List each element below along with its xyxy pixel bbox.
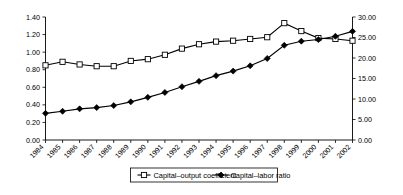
series-1-marker <box>282 21 287 26</box>
x-axis-tick-label: 1989 <box>113 143 131 161</box>
left-axis-tick-label: 0.20 <box>26 118 40 127</box>
series-1-marker <box>299 28 304 33</box>
series-2-marker <box>213 73 219 79</box>
x-axis-tick-label: 1999 <box>284 143 302 161</box>
series-1-marker <box>60 59 65 64</box>
x-axis-tick-label: 1994 <box>198 143 216 161</box>
series-1-marker <box>213 39 218 44</box>
right-axis-tick-label: 25.00 <box>358 33 376 42</box>
series-2-marker <box>60 108 66 114</box>
x-axis-tick-label: 1990 <box>130 143 148 161</box>
left-axis-tick-label: 0.60 <box>26 83 40 92</box>
series-2-marker <box>128 99 134 105</box>
series-2-marker <box>196 78 202 84</box>
x-axis-tick-label: 1996 <box>232 143 250 161</box>
series-1-marker <box>111 64 116 69</box>
left-axis-tick-label: 0.80 <box>26 65 40 74</box>
series-1-marker <box>350 38 355 43</box>
series-2-marker <box>350 28 356 34</box>
series-2-marker <box>298 38 304 44</box>
series-1-marker <box>94 64 99 69</box>
series-2-marker <box>111 103 117 109</box>
right-axis-tick-label: 5.00 <box>358 115 372 124</box>
right-axis-tick-label: 0.00 <box>358 136 372 145</box>
x-axis-tick-label: 1992 <box>164 143 182 161</box>
x-axis-tick-label: 2000 <box>301 143 319 161</box>
line-chart: 0.000.200.400.600.801.001.201.400.005.00… <box>0 0 403 195</box>
legend-marker-open-square-icon <box>141 172 146 177</box>
series-1-marker <box>231 38 236 43</box>
left-axis-tick-label: 1.00 <box>26 48 40 57</box>
series-2-marker <box>162 89 168 95</box>
x-axis-tick-label: 1993 <box>181 143 199 161</box>
x-axis-tick-label: 1991 <box>147 143 165 161</box>
series-2-marker <box>77 106 83 112</box>
x-axis-tick-label: 1984 <box>28 143 46 161</box>
x-axis-tick-label: 1987 <box>79 143 97 161</box>
series-1-marker <box>248 36 253 41</box>
left-axis-tick-label: 1.40 <box>26 13 40 22</box>
right-axis-tick-label: 10.00 <box>358 95 376 104</box>
series-1-marker <box>43 63 48 68</box>
series-2-marker <box>94 105 100 111</box>
series-2-marker <box>43 110 49 116</box>
series-1-marker <box>265 35 270 40</box>
series-1-marker <box>145 57 150 62</box>
left-axis-tick-label: 0.40 <box>26 100 40 109</box>
x-axis-tick-label: 1986 <box>62 143 80 161</box>
right-axis-tick-label: 15.00 <box>358 74 376 83</box>
x-axis-tick-label: 2002 <box>335 143 353 161</box>
series-1-marker <box>128 58 133 63</box>
right-axis-tick-label: 20.00 <box>358 54 376 63</box>
x-axis-tick-label: 1998 <box>267 143 285 161</box>
series-2-marker <box>230 68 236 74</box>
x-axis-tick-label: 1985 <box>45 143 63 161</box>
series-2-marker <box>179 84 185 90</box>
series-1-marker <box>77 62 82 67</box>
x-axis-tick-label: 1997 <box>249 143 267 161</box>
legend-label-2: Capital–labor ratio <box>231 171 291 180</box>
series-1-marker <box>179 46 184 51</box>
x-axis-tick-label: 2001 <box>318 143 336 161</box>
x-axis-tick-label: 1988 <box>96 143 114 161</box>
series-1-marker <box>196 42 201 47</box>
left-axis-tick-label: 1.20 <box>26 30 40 39</box>
series-2-marker <box>247 63 253 69</box>
series-1-marker <box>162 52 167 57</box>
right-axis-tick-label: 30.00 <box>358 13 376 22</box>
chart-container: 0.000.200.400.600.801.001.201.400.005.00… <box>0 0 403 195</box>
series-2-marker <box>145 94 151 100</box>
x-axis-tick-label: 1995 <box>215 143 233 161</box>
